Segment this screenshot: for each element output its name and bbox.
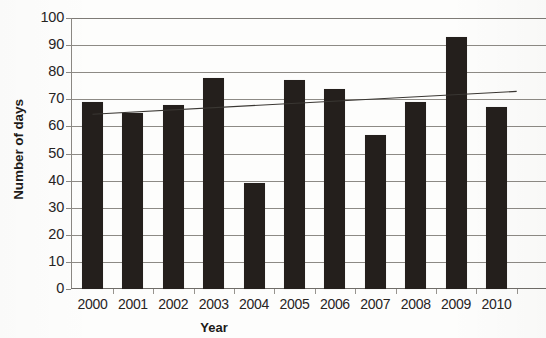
y-tick-label: 0 (20, 281, 64, 296)
x-tick-label: 2009 (434, 296, 478, 312)
x-tick-label: 2005 (273, 296, 317, 312)
y-tick-label: 100 (20, 10, 64, 25)
y-tick-mark (66, 181, 71, 182)
y-tick-label: 40 (20, 173, 64, 188)
y-tick-mark (66, 208, 71, 209)
x-tick-label: 2001 (111, 296, 155, 312)
y-tick-mark (66, 154, 71, 155)
trendline-path (93, 91, 517, 114)
x-tick-label: 2003 (192, 296, 236, 312)
y-tick-label: 30 (20, 200, 64, 215)
x-tick-mark (274, 289, 275, 294)
x-tick-mark (476, 289, 477, 294)
y-tick-label: 60 (20, 118, 64, 133)
trendline (71, 18, 546, 289)
y-tick-mark (66, 235, 71, 236)
y-tick-label: 10 (20, 254, 64, 269)
x-tick-mark (355, 289, 356, 294)
y-axis-tick-labels: 0102030405060708090100 (14, 0, 64, 338)
x-axis-tick-labels: 2000200120022003200420052006200720082009… (71, 296, 546, 318)
y-tick-label: 70 (20, 91, 64, 106)
y-tick-label: 80 (20, 64, 64, 79)
x-tick-mark (517, 289, 518, 294)
bar-chart: Number of days 0102030405060708090100 20… (0, 0, 546, 338)
plot-area (71, 18, 546, 289)
y-tick-label: 90 (20, 37, 64, 52)
x-tick-label: 2008 (394, 296, 438, 312)
x-tick-mark (396, 289, 397, 294)
y-tick-mark (66, 72, 71, 73)
x-tick-mark (153, 289, 154, 294)
y-tick-mark (66, 45, 71, 46)
x-tick-label: 2002 (151, 296, 195, 312)
x-tick-mark (315, 289, 316, 294)
x-tick-mark (234, 289, 235, 294)
x-axis-title: Year (0, 320, 428, 335)
y-tick-label: 20 (20, 227, 64, 242)
x-tick-mark (194, 289, 195, 294)
y-tick-label: 50 (20, 146, 64, 161)
y-tick-mark (66, 99, 71, 100)
y-tick-mark (66, 262, 71, 263)
x-tick-label: 2007 (353, 296, 397, 312)
x-tick-label: 2006 (313, 296, 357, 312)
x-tick-label: 2000 (71, 296, 115, 312)
x-tick-label: 2010 (475, 296, 519, 312)
y-tick-mark (66, 289, 71, 290)
x-tick-label: 2004 (232, 296, 276, 312)
y-tick-mark (66, 126, 71, 127)
x-tick-mark (436, 289, 437, 294)
y-tick-mark (66, 18, 71, 19)
x-tick-mark (113, 289, 114, 294)
